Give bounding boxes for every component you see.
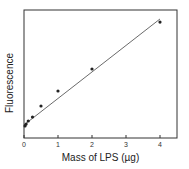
data-point bbox=[27, 119, 30, 122]
y-axis-label: Fluorescence bbox=[2, 73, 16, 93]
y-axis-label-text: Fluorescence bbox=[4, 53, 15, 113]
x-tick-label: 3 bbox=[124, 141, 128, 148]
x-axis-label: Mass of LPS (µg) bbox=[24, 152, 177, 163]
data-point bbox=[25, 122, 28, 125]
x-tick-label: 4 bbox=[158, 141, 162, 148]
data-point bbox=[56, 89, 59, 92]
data-point bbox=[90, 67, 93, 70]
data-point bbox=[158, 20, 161, 23]
data-point bbox=[31, 115, 34, 118]
fit-line bbox=[24, 19, 160, 125]
plot-frame bbox=[24, 10, 177, 138]
data-point bbox=[39, 104, 42, 107]
x-tick-label: 0 bbox=[22, 141, 26, 148]
x-tick-label: 1 bbox=[56, 141, 60, 148]
chart-svg: 01234 bbox=[0, 0, 189, 169]
x-tick-label: 2 bbox=[90, 141, 94, 148]
